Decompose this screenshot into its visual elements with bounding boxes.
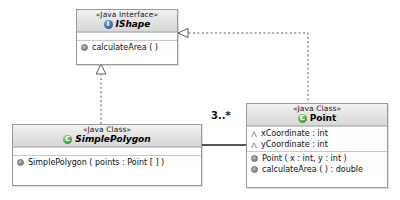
ishape-name-row: IShape (77, 19, 177, 29)
member-row[interactable]: calculateArea ( ) : double (247, 164, 387, 175)
java-class-icon (298, 114, 307, 123)
method-icon (81, 44, 88, 51)
simplepolygon-name-row: SimplePolygon (13, 134, 201, 144)
class-box-ishape[interactable]: «Java Interface» IShape calculateArea ( … (76, 9, 178, 65)
member-label: calculateArea ( ) : double (262, 165, 363, 175)
ishape-stereotype: «Java Interface» (77, 11, 177, 19)
protected-attribute-icon (251, 131, 257, 137)
hollow-triangle-arrowhead (178, 29, 188, 38)
member-row[interactable]: Point ( x : int, y : int ) (247, 153, 387, 164)
ishape-name: IShape (116, 19, 151, 29)
attribute-row[interactable]: yCoordinate : int (247, 139, 387, 150)
association-multiplicity-label: 3..* (211, 110, 231, 121)
uml-diagram-canvas: «Java Interface» IShape calculateArea ( … (0, 0, 400, 200)
attribute-label: xCoordinate : int (261, 129, 328, 139)
class-box-simplepolygon[interactable]: «Java Class» SimplePolygon SimplePolygon… (12, 124, 202, 186)
point-name-row: Point (247, 113, 387, 123)
point-operations-compartment: Point ( x : int, y : int ) calculateArea… (247, 151, 387, 176)
ishape-attributes-compartment (77, 32, 177, 40)
member-row[interactable]: SimplePolygon ( points : Point [ ] ) (13, 157, 201, 168)
attribute-row[interactable]: xCoordinate : int (247, 128, 387, 139)
member-row[interactable]: calculateArea ( ) (77, 42, 177, 53)
simplepolygon-name: SimplePolygon (75, 134, 150, 144)
realization-simplepolygon-to-ishape (96, 64, 106, 124)
point-name: Point (310, 113, 337, 123)
simplepolygon-header: «Java Class» SimplePolygon (13, 125, 201, 147)
class-box-point[interactable]: «Java Class» Point xCoordinate : int yCo… (246, 103, 388, 188)
ishape-header: «Java Interface» IShape (77, 10, 177, 32)
java-interface-icon (104, 20, 113, 29)
method-icon (17, 159, 24, 166)
point-header: «Java Class» Point (247, 104, 387, 126)
simplepolygon-operations-compartment: SimplePolygon ( points : Point [ ] ) (13, 155, 201, 169)
simplepolygon-attributes-compartment (13, 147, 201, 155)
point-attributes-compartment: xCoordinate : int yCoordinate : int (247, 126, 387, 151)
protected-attribute-icon (251, 142, 257, 148)
member-label: calculateArea ( ) (92, 43, 158, 53)
simplepolygon-stereotype: «Java Class» (13, 126, 201, 134)
method-icon (251, 155, 258, 162)
member-label: SimplePolygon ( points : Point [ ] ) (28, 158, 164, 168)
point-stereotype: «Java Class» (247, 105, 387, 113)
ishape-operations-compartment: calculateArea ( ) (77, 40, 177, 54)
attribute-label: yCoordinate : int (261, 140, 328, 150)
method-icon (251, 166, 258, 173)
java-class-icon (63, 135, 72, 144)
hollow-triangle-arrowhead (96, 64, 106, 74)
member-label: Point ( x : int, y : int ) (262, 154, 347, 164)
